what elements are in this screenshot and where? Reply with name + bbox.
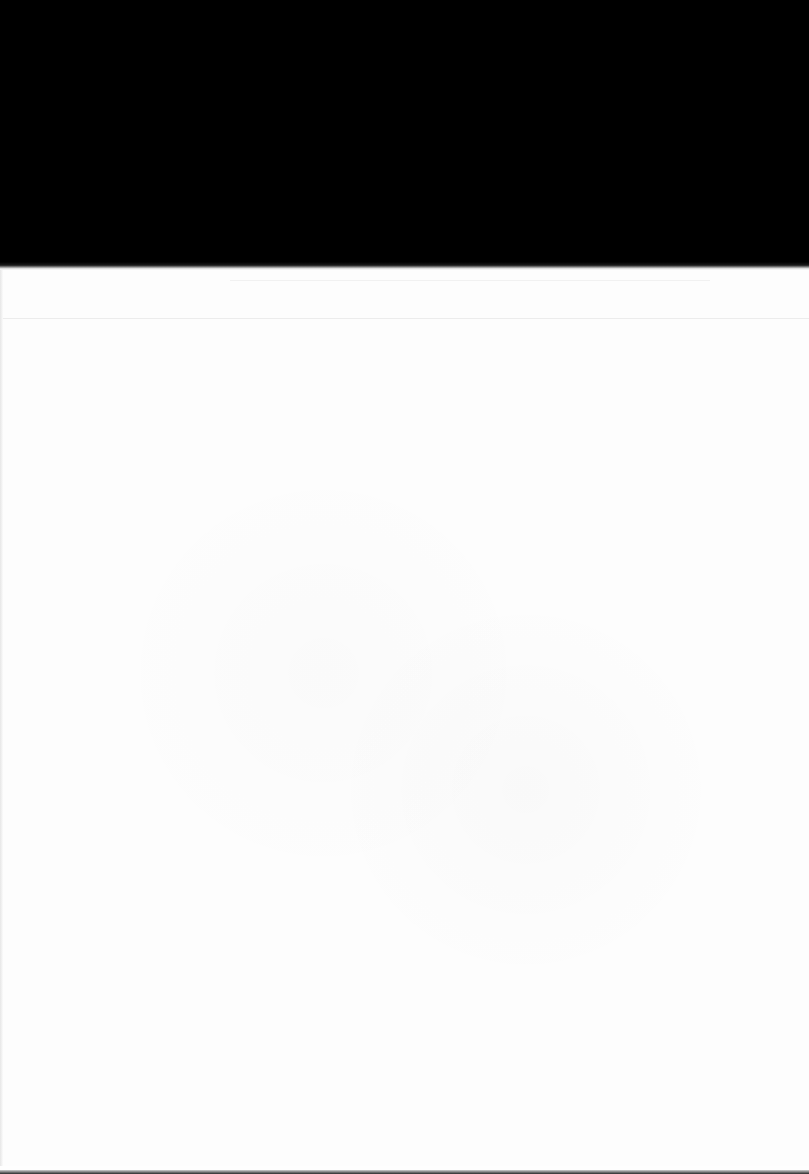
scanner-black-band (0, 0, 809, 266)
blank-paper-body (0, 270, 809, 1166)
faint-bleed-line (230, 280, 710, 281)
scanner-band-edge (0, 262, 809, 270)
faint-horizontal-rule (0, 318, 809, 319)
scanned-page (0, 0, 809, 1174)
page-left-edge (0, 270, 3, 1166)
page-bottom-edge (0, 1170, 809, 1174)
